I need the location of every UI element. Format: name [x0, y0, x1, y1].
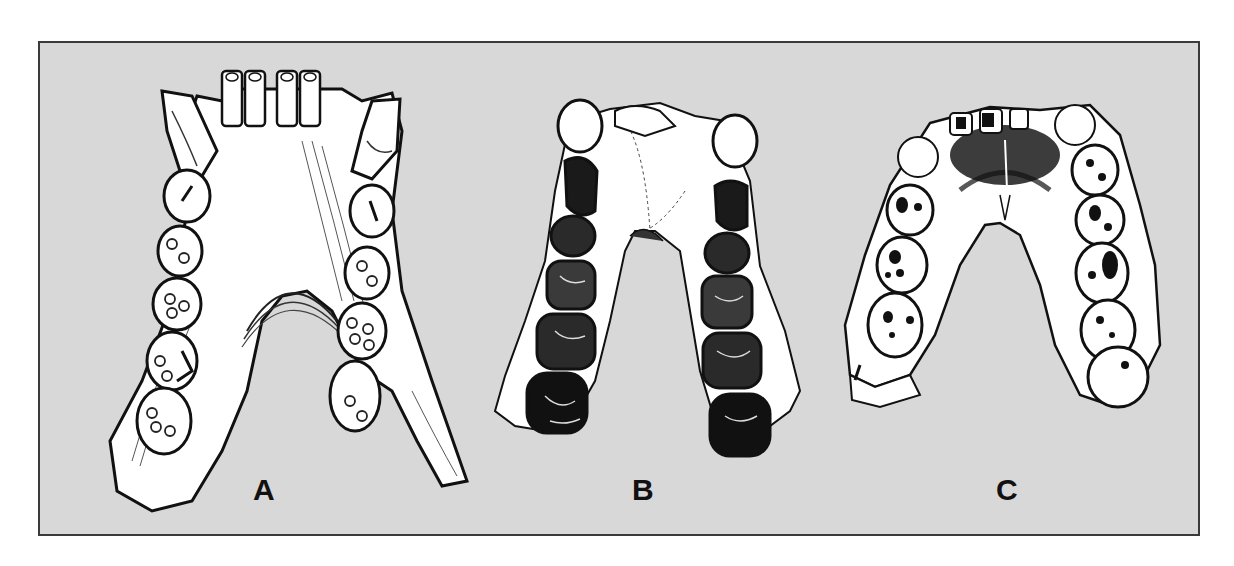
panel-label-c: C — [996, 475, 1018, 505]
panel-label-b: B — [632, 475, 654, 505]
figure-panel: A — [38, 41, 1200, 536]
jaw-c-illustration — [840, 95, 1180, 415]
panel-label-a: A — [253, 475, 275, 505]
jaw-drawing-b — [485, 81, 805, 481]
jaw-drawing-a — [72, 61, 482, 531]
jaw-a-illustration — [72, 61, 482, 531]
jaw-b-illustration — [485, 81, 805, 481]
jaw-drawing-c — [840, 95, 1180, 415]
